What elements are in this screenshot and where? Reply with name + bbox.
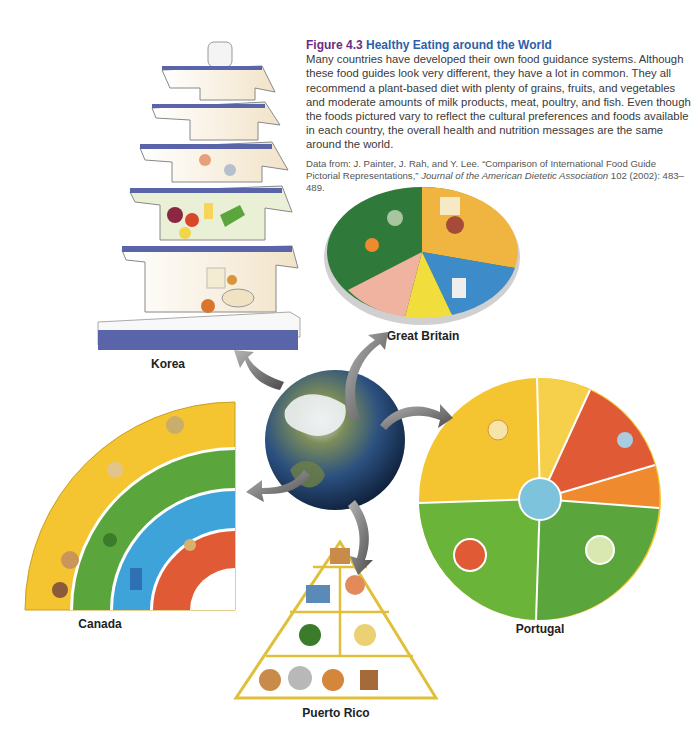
arrow-to-korea-icon: [234, 350, 284, 390]
canada-label: Canada: [78, 617, 122, 631]
canada-rainbow-guide: [25, 402, 235, 610]
korea-label: Korea: [151, 357, 185, 371]
great-britain-plate-guide: [324, 187, 520, 325]
korea-pagoda-guide: [98, 42, 300, 350]
great-britain-label: Great Britain: [387, 329, 460, 343]
portugal-label: Portugal: [516, 622, 565, 636]
puerto-rico-pyramid-guide: [236, 542, 436, 698]
puerto-rico-label: Puerto Rico: [302, 706, 369, 720]
portugal-wheel-guide: [416, 375, 664, 623]
food-guides-illustration: Korea Great Britain Canada: [0, 0, 692, 739]
